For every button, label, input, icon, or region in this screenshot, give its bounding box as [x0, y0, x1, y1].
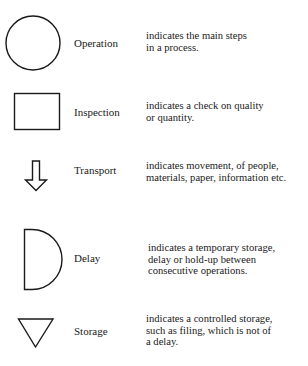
symbol-description: indicates a check on quality or quantity…: [146, 100, 306, 123]
circle-icon: [0, 0, 70, 80]
rectangle-icon: [0, 80, 70, 150]
symbol-label: Operation: [74, 37, 118, 49]
legend-row-delay: Delay indicates a temporary storage, del…: [0, 220, 308, 300]
symbol-label: Delay: [74, 252, 100, 264]
symbol-description: indicates a controlled storage, such as …: [146, 313, 306, 348]
symbol-description: indicates movement, of people, materials…: [146, 160, 306, 183]
down-arrow-icon: [0, 150, 70, 220]
legend-row-storage: Storage indicates a controlled storage, …: [0, 300, 308, 366]
symbol-label: Inspection: [74, 106, 120, 118]
legend-row-operation: Operation indicates the main steps in a …: [0, 0, 308, 80]
inverted-triangle-icon: [0, 300, 70, 366]
d-shape-icon: [0, 220, 70, 300]
legend-row-transport: Transport indicates movement, of people,…: [0, 150, 308, 220]
symbol-label: Storage: [74, 325, 108, 337]
symbol-description: indicates a temporary storage, delay or …: [148, 242, 308, 277]
symbol-description: indicates the main steps in a process.: [146, 30, 306, 53]
legend-row-inspection: Inspection indicates a check on quality …: [0, 80, 308, 150]
symbol-label: Transport: [74, 164, 116, 176]
